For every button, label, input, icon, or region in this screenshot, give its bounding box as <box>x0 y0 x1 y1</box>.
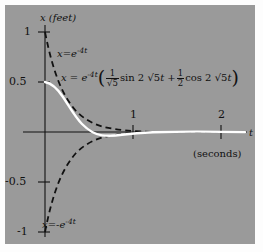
fraction-one-half: 12 <box>177 69 184 88</box>
y-tick-1: 1 <box>24 26 31 37</box>
plot-area: x (feet) 1 0.5 -0.5 -1 1 2 t (seconds) x… <box>5 5 255 244</box>
x-tick-2: 2 <box>218 109 225 120</box>
annotation-lower-envelope: x=-e-4t <box>42 218 76 230</box>
y-tick-0point5: 0.5 <box>9 76 27 87</box>
fraction-one-over-sqrt5: 1√5 <box>106 69 119 88</box>
y-tick-neg0point5: -0.5 <box>5 176 26 187</box>
y-axis-label: x (feet) <box>40 13 76 23</box>
annotation-solution-equation: x = e-4t(1√5sin 2 √5t +12cos 2 √5t) <box>61 69 239 88</box>
figure-container: x (feet) 1 0.5 -0.5 -1 1 2 t (seconds) x… <box>0 0 263 252</box>
x-axis-label: t <box>249 128 253 138</box>
x-axis-units-label: (seconds) <box>193 149 241 159</box>
y-tick-neg1: -1 <box>17 226 28 237</box>
annotation-upper-envelope: x=e-4t <box>57 47 87 59</box>
x-tick-1: 1 <box>130 109 137 120</box>
chart-svg <box>5 5 255 244</box>
